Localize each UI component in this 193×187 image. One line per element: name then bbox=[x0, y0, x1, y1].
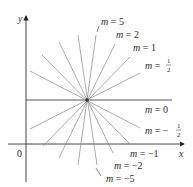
label-m-1: m = 1 bbox=[133, 42, 156, 53]
line-m-neghalf bbox=[30, 71, 140, 128]
svg-text:1: 1 bbox=[177, 122, 181, 130]
y-axis-label: y bbox=[17, 13, 23, 24]
label-m-neghalf: m = − 1 2 bbox=[145, 122, 181, 139]
line-m-neg2 bbox=[59, 42, 113, 153]
svg-text:2: 2 bbox=[177, 131, 181, 139]
origin-label: 0 bbox=[17, 148, 22, 159]
label-m-neg1: m = −1 bbox=[130, 148, 159, 159]
label-m-neg5: m = −5 bbox=[106, 173, 135, 184]
label-m-neg2: m = −2 bbox=[114, 160, 143, 171]
svg-text:2: 2 bbox=[167, 66, 171, 74]
family-of-lines-diagram: y x 0 m = 5 m = 2 m = 1 m = 1 2 m = 0 m … bbox=[0, 0, 193, 187]
label-m-5: m = 5 bbox=[101, 16, 124, 27]
leader-m-neg5 bbox=[96, 168, 101, 176]
leader-m-5 bbox=[97, 26, 99, 32]
label-m-half: m = 1 2 bbox=[145, 57, 171, 74]
common-point bbox=[85, 98, 89, 102]
label-m-2: m = 2 bbox=[116, 29, 139, 40]
svg-text:m = −: m = − bbox=[145, 125, 169, 136]
svg-text:m =: m = bbox=[145, 60, 161, 71]
label-m-0: m = 0 bbox=[145, 104, 168, 115]
svg-text:1: 1 bbox=[167, 57, 171, 65]
x-axis-label: x bbox=[178, 148, 184, 159]
